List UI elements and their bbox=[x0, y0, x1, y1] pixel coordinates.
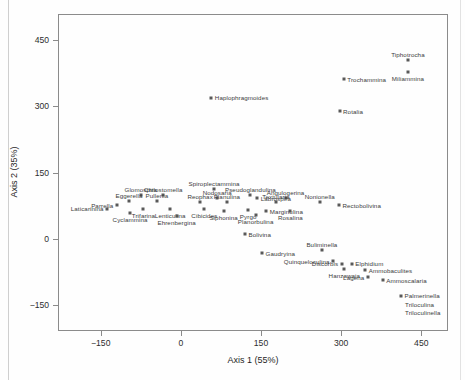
data-point bbox=[169, 208, 172, 211]
point-label: Triloculina bbox=[405, 300, 434, 307]
data-point bbox=[320, 249, 323, 252]
point-label: Tiphotrocha bbox=[391, 51, 425, 58]
scatter-plot-figure: −1500150300450 −1500150300450 Tiphotroch… bbox=[0, 0, 465, 380]
data-point bbox=[106, 207, 109, 210]
point-label: Eggerella bbox=[116, 191, 143, 198]
data-point bbox=[203, 207, 206, 210]
data-point bbox=[142, 208, 145, 211]
data-point bbox=[338, 110, 341, 113]
point-label: Triloculinella bbox=[405, 308, 441, 315]
y-tick-mark bbox=[53, 239, 58, 240]
point-label: Palmerinella bbox=[404, 292, 439, 299]
x-tick-mark bbox=[261, 331, 262, 336]
data-point bbox=[274, 201, 277, 204]
data-point bbox=[350, 262, 353, 265]
point-label: Cyclammina bbox=[113, 216, 148, 223]
data-point bbox=[254, 213, 257, 216]
point-label: Miliammina bbox=[392, 75, 424, 82]
x-tick-mark bbox=[181, 331, 182, 336]
data-point bbox=[210, 96, 213, 99]
point-label: Nonionella bbox=[305, 192, 335, 199]
point-label: Laticarinina bbox=[71, 205, 104, 212]
data-point bbox=[406, 71, 409, 74]
data-point bbox=[289, 210, 292, 213]
y-tick-label: −150 bbox=[30, 300, 49, 310]
x-tick-label: 0 bbox=[178, 338, 183, 348]
data-point bbox=[247, 209, 250, 212]
y-tick-mark bbox=[53, 40, 58, 41]
data-point bbox=[318, 200, 321, 203]
data-point bbox=[342, 78, 345, 81]
point-label: Siphonina bbox=[209, 214, 237, 221]
data-point bbox=[381, 279, 384, 282]
data-point bbox=[366, 276, 369, 279]
point-label: Discorbis bbox=[312, 260, 338, 267]
data-point bbox=[243, 233, 246, 236]
point-label: Bolivina bbox=[248, 230, 270, 237]
y-tick-mark bbox=[53, 106, 58, 107]
point-label: Planorbulina bbox=[238, 217, 274, 224]
point-label: Rotalia bbox=[343, 107, 363, 114]
point-label: Trochammina bbox=[347, 75, 386, 82]
data-point bbox=[199, 200, 202, 203]
x-tick-label: 450 bbox=[414, 338, 428, 348]
point-label: Haplophragmoides bbox=[215, 94, 269, 101]
x-axis-title: Axis 1 (55%) bbox=[227, 355, 278, 365]
data-point bbox=[261, 252, 264, 255]
point-label: Ehrenbergina bbox=[157, 218, 195, 225]
y-axis-title: Axis 2 (35%) bbox=[9, 146, 19, 197]
data-point bbox=[155, 199, 158, 202]
point-label: Reophax bbox=[187, 192, 212, 199]
y-tick-mark bbox=[53, 305, 58, 306]
point-label: Pullenia bbox=[145, 191, 168, 198]
point-label: Gaudryina bbox=[266, 249, 295, 256]
x-tick-label: 300 bbox=[334, 338, 348, 348]
plot-frame bbox=[58, 14, 448, 331]
data-point bbox=[175, 214, 178, 217]
point-label: Buliminella bbox=[306, 241, 337, 248]
point-label: Ammoscalaria bbox=[386, 276, 426, 283]
point-label: Lagena bbox=[343, 273, 364, 280]
data-point bbox=[222, 210, 225, 213]
data-point bbox=[340, 262, 343, 265]
data-point bbox=[256, 197, 259, 200]
point-label: Textularia bbox=[262, 193, 289, 200]
x-tick-label: 150 bbox=[254, 338, 268, 348]
data-point bbox=[399, 294, 402, 297]
y-tick-label: 450 bbox=[35, 35, 49, 45]
data-point bbox=[128, 199, 131, 202]
y-tick-label: 0 bbox=[44, 234, 49, 244]
data-point bbox=[249, 193, 252, 196]
x-tick-label: −150 bbox=[91, 338, 110, 348]
data-point bbox=[225, 200, 228, 203]
data-point bbox=[343, 268, 346, 271]
data-point bbox=[129, 212, 132, 215]
data-point bbox=[115, 204, 118, 207]
page-edge-right bbox=[460, 0, 461, 380]
point-label: Rectobolivina bbox=[343, 201, 381, 208]
data-point bbox=[364, 269, 367, 272]
point-label: Planulina bbox=[214, 192, 240, 199]
y-tick-mark bbox=[53, 173, 58, 174]
data-point bbox=[338, 204, 341, 207]
y-tick-label: 150 bbox=[35, 168, 49, 178]
y-tick-label: 300 bbox=[35, 101, 49, 111]
x-tick-mark bbox=[341, 331, 342, 336]
point-label: Rosalina bbox=[278, 214, 303, 221]
data-point bbox=[265, 210, 268, 213]
data-point bbox=[406, 59, 409, 62]
point-label: Ammobaculites bbox=[369, 266, 413, 273]
x-tick-mark bbox=[101, 331, 102, 336]
x-tick-mark bbox=[421, 331, 422, 336]
